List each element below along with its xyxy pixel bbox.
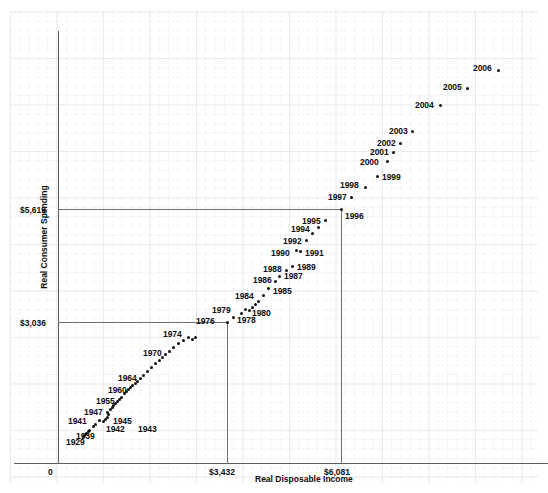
data-point-label: 1945 bbox=[113, 416, 132, 426]
data-point bbox=[154, 362, 157, 365]
data-point bbox=[232, 316, 235, 319]
data-point bbox=[399, 142, 402, 145]
data-point-label: 1970 bbox=[143, 348, 162, 358]
data-point bbox=[94, 423, 97, 426]
data-point bbox=[439, 104, 442, 107]
plot-area: 1929193919411942194319451947195519601964… bbox=[0, 0, 548, 493]
x-axis-line bbox=[14, 463, 548, 464]
data-point bbox=[291, 265, 294, 268]
scatter-plot-screenshot: 1929193919411942194319451947195519601964… bbox=[0, 0, 548, 493]
data-point-label: 1989 bbox=[297, 262, 316, 272]
data-point-label: 2002 bbox=[377, 138, 396, 148]
data-point-label: 1939 bbox=[76, 431, 95, 441]
data-point-label: 1941 bbox=[68, 416, 87, 426]
data-point bbox=[340, 208, 343, 211]
y-axis-title: Real Consumer Spending bbox=[39, 177, 49, 297]
data-point bbox=[150, 366, 153, 369]
data-point bbox=[98, 419, 101, 422]
data-point bbox=[497, 69, 500, 72]
data-point-label: 1976 bbox=[196, 316, 215, 326]
data-point bbox=[244, 308, 247, 311]
reference-line-y-5619 bbox=[58, 209, 342, 210]
data-point bbox=[386, 160, 389, 163]
data-point bbox=[139, 377, 142, 380]
data-point bbox=[168, 350, 171, 353]
data-point-label: 1964 bbox=[118, 373, 137, 383]
x-tick-3432: $3,432 bbox=[209, 467, 235, 477]
data-point bbox=[194, 336, 197, 339]
data-point bbox=[392, 151, 395, 154]
data-point bbox=[324, 219, 327, 222]
data-point bbox=[305, 239, 308, 242]
data-point-label: 1943 bbox=[138, 424, 157, 434]
data-point-label: 1986 bbox=[253, 275, 272, 285]
x-tick-0: 0 bbox=[48, 467, 53, 477]
data-point-label: 1979 bbox=[212, 305, 231, 315]
data-point-label: 1984 bbox=[235, 291, 254, 301]
data-point bbox=[106, 411, 109, 414]
data-point bbox=[295, 249, 298, 252]
data-point bbox=[466, 87, 469, 90]
data-point-label: 2000 bbox=[360, 157, 379, 167]
data-point bbox=[350, 196, 353, 199]
data-point bbox=[172, 346, 175, 349]
data-point bbox=[177, 342, 180, 345]
data-point bbox=[311, 232, 314, 235]
data-point-label: 1987 bbox=[284, 271, 303, 281]
data-point-label: 2005 bbox=[443, 82, 462, 92]
data-point bbox=[364, 186, 367, 189]
data-point bbox=[146, 370, 149, 373]
data-point bbox=[257, 300, 260, 303]
data-point-label: 2006 bbox=[473, 63, 492, 73]
data-point bbox=[262, 294, 265, 297]
data-point bbox=[142, 374, 145, 377]
data-point-label: 2003 bbox=[389, 126, 408, 136]
data-point-label: 1995 bbox=[302, 216, 321, 226]
data-point bbox=[226, 321, 229, 324]
reference-line-x-3432 bbox=[227, 322, 228, 464]
data-point-label: 1988 bbox=[263, 264, 282, 274]
data-point-label: 1955 bbox=[96, 396, 115, 406]
data-point-label: 1996 bbox=[345, 211, 364, 221]
data-point bbox=[411, 130, 414, 133]
x-axis-title: Real Disposable Income bbox=[255, 474, 353, 484]
data-point bbox=[158, 359, 161, 362]
data-point-label: 1991 bbox=[305, 248, 324, 258]
data-point bbox=[120, 396, 123, 399]
data-point bbox=[164, 353, 167, 356]
data-point bbox=[278, 275, 281, 278]
data-point-label: 2001 bbox=[370, 147, 389, 157]
data-point bbox=[191, 338, 194, 341]
data-point bbox=[267, 287, 270, 290]
data-point-label: 1974 bbox=[163, 329, 182, 339]
data-point-label: 1997 bbox=[328, 192, 347, 202]
y-axis-line bbox=[58, 31, 59, 464]
data-point bbox=[299, 250, 302, 253]
data-point bbox=[254, 303, 257, 306]
data-point-label: 1998 bbox=[340, 180, 359, 190]
data-point-label: 1990 bbox=[271, 248, 290, 258]
data-point bbox=[187, 336, 190, 339]
data-point-label: 2004 bbox=[415, 100, 434, 110]
reference-line-x-6081 bbox=[341, 209, 342, 464]
data-point-label: 1992 bbox=[283, 236, 302, 246]
data-point bbox=[274, 280, 277, 283]
data-point bbox=[376, 175, 379, 178]
data-point-label: 1985 bbox=[273, 286, 292, 296]
data-point-label: 1980 bbox=[252, 308, 271, 318]
data-point-label: 1960 bbox=[108, 385, 127, 395]
data-point-label: 1947 bbox=[84, 407, 103, 417]
y-tick-3036: $3,036 bbox=[20, 318, 46, 328]
data-point bbox=[131, 384, 134, 387]
data-point-label: 1999 bbox=[382, 172, 401, 182]
data-point bbox=[248, 309, 251, 312]
data-point bbox=[106, 416, 109, 419]
